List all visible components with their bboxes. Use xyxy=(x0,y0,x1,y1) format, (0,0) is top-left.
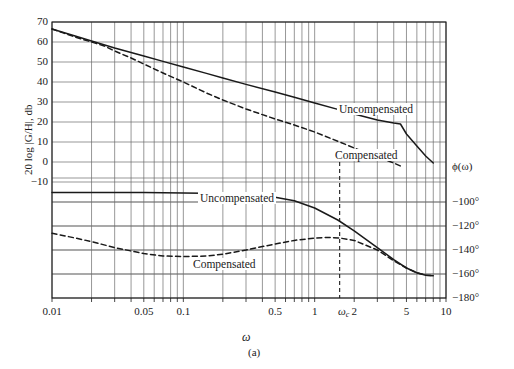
annotation-phase-compensated: Compensated xyxy=(191,258,258,270)
annotation-mag-uncompensated: Uncompensated xyxy=(337,103,415,115)
x-tick-8: 10 xyxy=(426,305,466,317)
y-tick-0: 0 xyxy=(22,155,48,167)
y-tick-70: 70 xyxy=(22,15,48,27)
figure-caption-text: (a) xyxy=(248,346,260,358)
phase-tick-1: −100° xyxy=(452,195,479,207)
x-tick-6: 2 xyxy=(334,305,374,317)
annotation-phase-uncompensated-text: Uncompensated xyxy=(200,192,274,204)
y-tick-10: 10 xyxy=(22,135,48,147)
x-tick-0: 0.01 xyxy=(32,305,72,317)
x-tick-2: 0.1 xyxy=(163,305,203,317)
x-axis-title-text: ω xyxy=(242,330,250,344)
y-tick-30: 30 xyxy=(22,95,48,107)
x-tick-1: 0.05 xyxy=(124,305,164,317)
phase-axis-title: ϕ(ω) xyxy=(452,160,472,172)
phase-axis-title-text: ϕ(ω) xyxy=(452,160,472,172)
phase-tick-2: −120° xyxy=(452,219,479,231)
annotation-phase-uncompensated: Uncompensated xyxy=(198,192,276,204)
phase-tick-4: −160° xyxy=(452,267,479,279)
phase-tick-3: −140° xyxy=(452,243,479,255)
y-tick-20: 20 xyxy=(22,115,48,127)
annotation-phase-compensated-text: Compensated xyxy=(193,258,256,270)
y-tick-40: 40 xyxy=(22,75,48,87)
figure-caption: (a) xyxy=(248,346,260,358)
annotation-mag-uncompensated-text: Uncompensated xyxy=(339,103,413,115)
x-tick-3: 0.5 xyxy=(255,305,295,317)
y-tick-50: 50 xyxy=(22,55,48,67)
phase-tick-5: −180° xyxy=(452,291,479,303)
annotation-mag-compensated: Compensated xyxy=(333,149,400,161)
x-axis-title: ω xyxy=(242,330,250,345)
y-tick--10: −10 xyxy=(22,175,48,187)
annotation-mag-compensated-text: Compensated xyxy=(335,149,398,161)
bode-plot-figure: 20 log |G/H|, db ω ϕ(ω) (a) Uncompensate… xyxy=(0,0,514,369)
x-tick-7: 5 xyxy=(386,305,426,317)
y-tick-60: 60 xyxy=(22,35,48,47)
